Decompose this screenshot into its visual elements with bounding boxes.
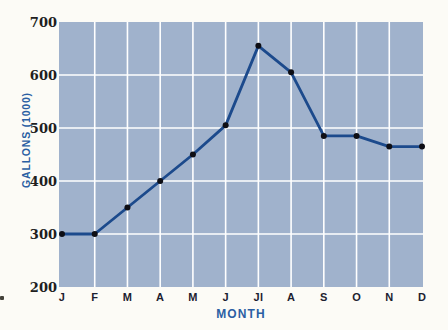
data-point bbox=[157, 178, 163, 184]
data-point bbox=[223, 122, 229, 128]
x-tick-label: A bbox=[156, 291, 164, 303]
x-tick-label: O bbox=[352, 291, 361, 303]
data-point bbox=[255, 43, 261, 49]
x-tick-label: J bbox=[222, 291, 228, 303]
plot-area bbox=[59, 22, 423, 287]
x-tick-label: F bbox=[91, 291, 98, 303]
x-axis-ticks: JFMAMJJlASOND bbox=[59, 291, 426, 303]
x-tick-label: M bbox=[123, 291, 132, 303]
y-axis-title: GALLONS (1000) bbox=[20, 92, 32, 188]
y-tick-label: 200 bbox=[30, 280, 57, 295]
scan-artifact-mark bbox=[0, 296, 4, 300]
data-point bbox=[386, 144, 392, 150]
y-tick-label: 400 bbox=[30, 174, 57, 189]
x-tick-label: S bbox=[320, 291, 328, 303]
x-tick-label: A bbox=[287, 291, 295, 303]
x-tick-label: N bbox=[385, 291, 393, 303]
data-point bbox=[354, 133, 360, 139]
x-tick-label: D bbox=[418, 291, 426, 303]
data-point bbox=[92, 231, 98, 237]
y-tick-label: 500 bbox=[30, 121, 57, 136]
data-point bbox=[190, 152, 196, 158]
y-axis-ticks: 200300400500600700 bbox=[30, 15, 57, 295]
data-point bbox=[419, 144, 425, 150]
x-tick-label: J bbox=[59, 291, 65, 303]
y-tick-label: 600 bbox=[30, 68, 57, 83]
data-point bbox=[321, 133, 327, 139]
x-tick-label: Jl bbox=[254, 291, 264, 303]
y-tick-label: 300 bbox=[30, 227, 57, 242]
data-point bbox=[59, 231, 65, 237]
x-axis-title: MONTH bbox=[216, 307, 266, 321]
chart-figure: 200300400500600700 JFMAMJJlASOND GALLONS… bbox=[0, 0, 448, 330]
y-tick-label: 700 bbox=[30, 15, 57, 30]
line-chart: 200300400500600700 JFMAMJJlASOND GALLONS… bbox=[0, 0, 448, 330]
x-tick-label: M bbox=[188, 291, 197, 303]
data-point bbox=[288, 69, 294, 75]
data-point bbox=[124, 205, 130, 211]
